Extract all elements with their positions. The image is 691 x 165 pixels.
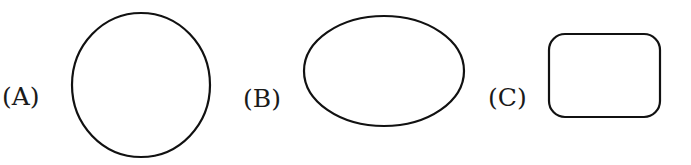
ellipse-shape [304,16,464,126]
rounded-rectangle-shape [549,34,660,117]
circle-shape [72,13,210,157]
shapes-canvas [0,0,691,165]
